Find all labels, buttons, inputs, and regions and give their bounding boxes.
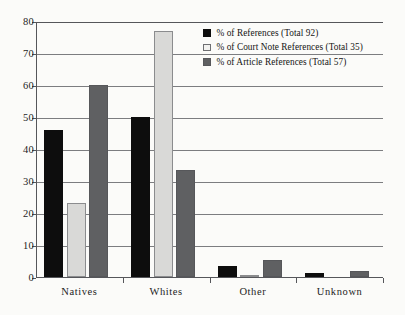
legend-swatch-icon (203, 58, 211, 66)
bar (350, 271, 369, 277)
bar-group (131, 22, 195, 277)
bar (218, 266, 237, 277)
legend-label: % of Article References (Total 57) (217, 57, 347, 67)
y-tick-label: 30 (4, 177, 34, 188)
bar-group (44, 22, 108, 277)
bar (305, 273, 324, 277)
bar (263, 260, 282, 277)
x-tick-mark (210, 278, 211, 283)
bar (44, 130, 63, 277)
x-tick-mark (123, 278, 124, 283)
legend-item: % of Court Note References (Total 35) (203, 41, 399, 55)
y-tick-label: 60 (4, 81, 34, 92)
bar (67, 203, 86, 277)
bar-chart: 01020304050607080 NativesWhitesOtherUnkn… (0, 0, 405, 315)
legend-swatch-icon (203, 44, 211, 52)
x-tick-label-unknown: Unknown (317, 286, 363, 298)
legend-label: % of References (Total 92) (217, 28, 319, 38)
y-tick-label: 70 (4, 49, 34, 60)
bar (89, 85, 108, 277)
y-tick-label: 40 (4, 145, 34, 156)
y-tick-label: 20 (4, 209, 34, 220)
bar (131, 117, 150, 277)
x-tick-label-natives: Natives (61, 286, 97, 298)
x-tick-mark (383, 278, 384, 283)
x-tick-label-whites: Whites (149, 286, 182, 298)
x-tick-label-other: Other (239, 286, 266, 298)
bar (176, 170, 195, 277)
y-axis: 01020304050607080 (0, 0, 34, 315)
chart-legend: % of References (Total 92)% of Court Not… (203, 26, 399, 70)
x-tick-mark (296, 278, 297, 283)
y-tick-label: 0 (4, 273, 34, 284)
legend-item: % of References (Total 92) (203, 26, 399, 40)
y-tick-label: 50 (4, 113, 34, 124)
legend-item: % of Article References (Total 57) (203, 55, 399, 69)
legend-swatch-icon (203, 29, 211, 37)
y-tick-label: 80 (4, 17, 34, 28)
bar (240, 275, 259, 277)
bar (154, 31, 173, 277)
legend-label: % of Court Note References (Total 35) (217, 42, 363, 52)
y-tick-label: 10 (4, 241, 34, 252)
